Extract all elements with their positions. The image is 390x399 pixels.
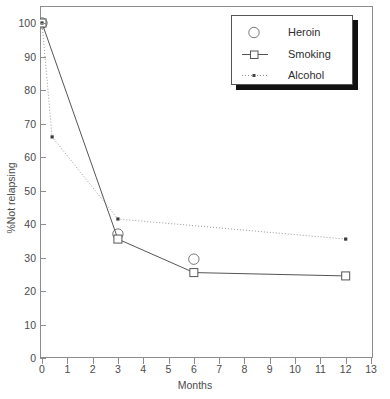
dotted-line-marker-icon: [240, 64, 284, 87]
x-tick-label: 6: [182, 363, 206, 375]
y-tick-mark: [40, 325, 46, 326]
legend-label-smoking: Smoking: [288, 48, 331, 60]
data-point-circle: [189, 254, 199, 264]
y-tick-mark: [40, 258, 46, 259]
x-tick-mark: [295, 358, 296, 364]
x-tick-mark: [346, 358, 347, 364]
circle-marker-icon: [240, 21, 284, 44]
y-tick-label: 0: [6, 353, 36, 363]
y-tick-mark: [40, 224, 46, 225]
x-tick-label: 10: [283, 363, 307, 375]
legend-entry-alcohol: Alcohol: [232, 64, 352, 87]
x-tick-mark: [93, 358, 94, 364]
x-tick-label: 1: [55, 363, 79, 375]
x-tick-mark: [194, 358, 195, 364]
data-point-dot: [344, 237, 347, 240]
y-tick-mark: [40, 191, 46, 192]
x-tick-mark: [169, 358, 170, 364]
series-heroin: [40, 18, 199, 265]
chart-legend: Heroin Smoking Alcohol: [231, 15, 353, 85]
x-tick-mark: [42, 358, 43, 364]
x-tick-mark: [270, 358, 271, 364]
x-axis-title: Months: [0, 379, 390, 391]
legend-label-heroin: Heroin: [288, 26, 320, 38]
x-tick-mark: [320, 358, 321, 364]
y-tick-mark: [40, 291, 46, 292]
x-tick-label: 0: [30, 363, 54, 375]
x-tick-mark: [67, 358, 68, 364]
legend-label-alcohol: Alcohol: [288, 69, 324, 81]
y-tick-mark: [40, 358, 46, 359]
x-tick-label: 12: [334, 363, 358, 375]
x-tick-label: 5: [157, 363, 181, 375]
x-tick-mark: [219, 358, 220, 364]
data-point-square: [342, 272, 350, 280]
y-tick-label: 20: [6, 286, 36, 296]
y-tick-label: 80: [6, 85, 36, 95]
legend-entry-heroin: Heroin: [232, 21, 352, 44]
square-marker-line-icon: [240, 43, 284, 66]
x-tick-label: 7: [207, 363, 231, 375]
y-tick-mark: [40, 23, 46, 24]
relapse-rate-line-chart: 0102030405060708090100 %Not relapsing 01…: [0, 0, 390, 399]
y-tick-label: 100: [6, 18, 36, 28]
y-tick-mark: [40, 157, 46, 158]
y-tick-mark: [40, 57, 46, 58]
legend-entry-smoking: Smoking: [232, 43, 352, 66]
x-tick-label: 4: [131, 363, 155, 375]
y-tick-label: 10: [6, 320, 36, 330]
y-tick-label: 90: [6, 52, 36, 62]
y-axis-title: %Not relapsing: [5, 138, 17, 258]
y-tick-mark: [40, 90, 46, 91]
x-tick-label: 3: [106, 363, 130, 375]
x-tick-mark: [371, 358, 372, 364]
x-tick-label: 2: [81, 363, 105, 375]
x-tick-label: 8: [232, 363, 256, 375]
data-point-dot: [116, 217, 119, 220]
x-tick-label: 9: [258, 363, 282, 375]
x-tick-mark: [244, 358, 245, 364]
data-point-dot: [51, 135, 54, 138]
x-tick-label: 11: [308, 363, 332, 375]
x-tick-mark: [143, 358, 144, 364]
x-tick-mark: [118, 358, 119, 364]
data-point-square: [190, 269, 198, 277]
x-tick-label: 13: [359, 363, 383, 375]
y-tick-label: 70: [6, 119, 36, 129]
data-point-square: [114, 235, 122, 243]
y-tick-mark: [40, 124, 46, 125]
